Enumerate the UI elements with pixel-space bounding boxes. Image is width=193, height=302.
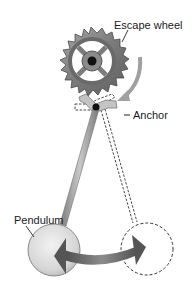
- pendulum-bob: [28, 224, 80, 276]
- escape-wheel: [60, 27, 129, 96]
- escapement-diagram: [0, 0, 193, 302]
- anchor-label: Anchor: [133, 109, 168, 121]
- pendulum-rod: [60, 108, 99, 226]
- wheel-axle-icon: [88, 57, 97, 66]
- escape-wheel-leader: [122, 30, 128, 42]
- ghost-bob-dashed: [121, 223, 173, 275]
- pendulum-leader: [26, 226, 34, 237]
- pendulum-label: Pendulum: [14, 214, 64, 226]
- escape-wheel-label: Escape wheel: [114, 19, 183, 31]
- anchor-pivot-icon: [93, 104, 100, 111]
